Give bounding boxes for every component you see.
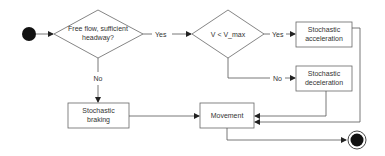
process-stochastic-acceleration: Stochastic acceleration — [296, 22, 352, 47]
decision-free-flow: Free flow, sufficient headway? — [54, 10, 143, 58]
start-node — [22, 27, 36, 41]
braking-line1: Stochastic — [82, 107, 115, 114]
decel-line2: deceleration — [305, 79, 343, 86]
edge-movement-to-end — [227, 128, 346, 140]
decision-v-less-vmax: V < V_max — [192, 10, 264, 58]
decision-free-flow-line2: headway? — [82, 34, 114, 42]
decel-line1: Stochastic — [308, 70, 341, 77]
edge-decel-to-movement — [255, 91, 326, 116]
edge-label-d1-no: No — [94, 75, 103, 82]
movement-label: Movement — [211, 112, 244, 119]
edge-d2-no-a — [228, 58, 270, 78]
accel-line2: acceleration — [305, 35, 343, 42]
braking-line2: braking — [87, 116, 110, 124]
decision-v-less-vmax-label: V < V_max — [211, 31, 246, 39]
edge-label-d2-no: No — [273, 75, 282, 82]
accel-line1: Stochastic — [308, 26, 341, 33]
edge-label-d1-yes: Yes — [155, 31, 167, 38]
process-stochastic-braking: Stochastic braking — [68, 103, 129, 128]
end-node — [348, 131, 366, 149]
process-stochastic-deceleration: Stochastic deceleration — [296, 66, 352, 91]
decision-free-flow-line1: Free flow, sufficient — [68, 25, 128, 32]
edge-label-d2-yes: Yes — [272, 31, 284, 38]
process-movement: Movement — [200, 103, 254, 128]
flowchart: Free flow, sufficient headway? Yes No V … — [0, 0, 385, 156]
